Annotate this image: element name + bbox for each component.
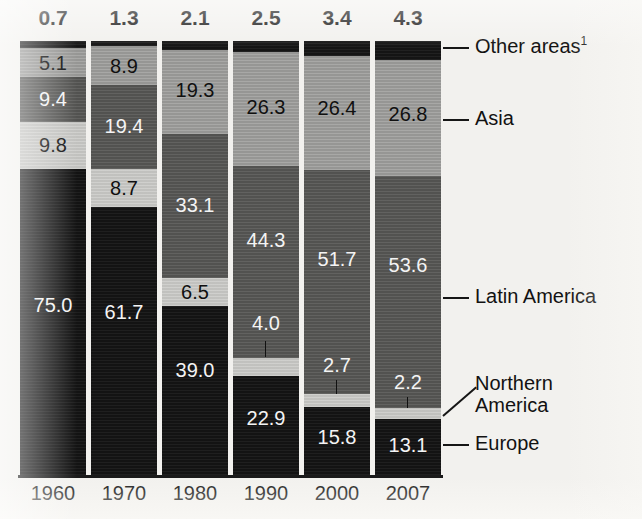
bar-1970-segment-europe[interactable]: 61.7 [91, 207, 157, 475]
bar-total-1990: 2.5 [231, 6, 301, 30]
bar-1990-segment-europe[interactable]: 22.9 [233, 376, 299, 475]
bar-1970-segment-northern-america[interactable]: 8.7 [91, 169, 157, 207]
bar-1980-segment-latin-america[interactable]: 33.1 [162, 134, 228, 278]
bar-2000-value-asia: 26.4 [304, 98, 370, 118]
bar-1960-segment-europe[interactable]: 75.0 [20, 169, 86, 475]
bar-2000-segment-europe[interactable]: 15.8 [304, 407, 370, 475]
legend-footnote-marker-other-areas: 1 [581, 34, 588, 48]
bar-1980-segment-europe[interactable]: 39.0 [162, 306, 228, 475]
legend-leader-latin-america [443, 297, 469, 299]
bar-total-1960: 0.7 [18, 6, 88, 30]
bar-total-1970: 1.3 [89, 6, 159, 30]
bar-2000-segment-latin-america[interactable]: 51.7 2.7 [304, 170, 370, 394]
bar-1970-value-latin-america: 19.4 [91, 116, 157, 136]
bar-1990-segment-latin-america[interactable]: 44.3 4.0 [233, 166, 299, 358]
legend-leader-asia [443, 119, 469, 121]
bar-2007-value-latin-america: 53.6 [375, 255, 441, 275]
legend-leader-other-areas [443, 47, 469, 49]
bar-1990-value-europe: 22.9 [233, 408, 299, 428]
bar-2007[interactable]: 26.8 53.6 2.2 13.1 [375, 41, 441, 475]
bar-1960-value-europe: 75.0 [20, 295, 86, 315]
bar-2007-segment-latin-america[interactable]: 53.6 2.2 [375, 176, 441, 408]
bar-2007-segment-other-areas[interactable] [375, 41, 441, 60]
x-axis-label-1980: 1980 [160, 482, 230, 505]
bar-2000-northern-america-leader-tick [336, 380, 337, 394]
bar-1970[interactable]: 8.9 19.4 8.7 61.7 [91, 41, 157, 475]
bar-1970-value-europe: 61.7 [91, 302, 157, 322]
bar-total-2007: 4.3 [373, 6, 443, 30]
bar-1990-segment-other-areas[interactable] [233, 41, 299, 52]
bar-1960[interactable]: 5.1 9.4 9.8 75.0 [20, 41, 86, 475]
bar-1960-segment-latin-america[interactable]: 9.4 [20, 77, 86, 122]
legend-label-northern-america: Northern America [475, 372, 553, 417]
bar-1990[interactable]: 26.3 44.3 4.0 22.9 [233, 41, 299, 475]
bar-1970-value-asia: 8.9 [91, 56, 157, 76]
bar-1990-northern-america-leader-tick [265, 341, 266, 357]
bar-2000-value-europe: 15.8 [304, 427, 370, 447]
bar-1970-segment-latin-america[interactable]: 19.4 [91, 85, 157, 169]
legend-label-latin-america: Latin America [475, 285, 596, 307]
bar-1980-segment-asia[interactable]: 19.3 [162, 50, 228, 134]
bar-total-2000: 3.4 [302, 6, 372, 30]
x-axis-label-2007: 2007 [373, 482, 443, 505]
x-axis-label-2000: 2000 [302, 482, 372, 505]
bar-1990-value-northern-america: 4.0 [233, 313, 299, 333]
bar-2007-segment-northern-america[interactable] [375, 408, 441, 419]
bar-1980-segment-northern-america[interactable]: 6.5 [162, 278, 228, 306]
bar-1960-segment-northern-america[interactable]: 9.8 [20, 122, 86, 169]
bar-2000[interactable]: 26.4 51.7 2.7 15.8 [304, 41, 370, 475]
bar-total-1980: 2.1 [160, 6, 230, 30]
x-axis-label-1960: 1960 [18, 482, 88, 505]
bar-1960-value-asia: 5.1 [20, 53, 86, 73]
bar-2000-segment-northern-america[interactable] [304, 394, 370, 407]
bar-2000-segment-other-areas[interactable] [304, 41, 370, 56]
bar-1990-value-asia: 26.3 [233, 97, 299, 117]
x-axis-line [18, 475, 443, 478]
bar-2007-value-asia: 26.8 [375, 104, 441, 124]
x-axis-label-1990: 1990 [231, 482, 301, 505]
legend-text-northern: Northern [475, 372, 553, 394]
legend-text-america: America [475, 394, 553, 416]
legend-label-other-areas: Other areas1 [475, 35, 587, 57]
bar-1970-value-northern-america: 8.7 [91, 178, 157, 198]
x-axis-label-1970: 1970 [89, 482, 159, 505]
bar-1960-value-northern-america: 9.8 [20, 135, 86, 155]
legend-text-other-areas: Other areas [475, 35, 581, 57]
bar-1980-value-latin-america: 33.1 [162, 195, 228, 215]
bar-1990-value-latin-america: 44.3 [233, 230, 299, 250]
bar-2007-value-europe: 13.1 [375, 435, 441, 455]
stacked-bar-chart: 0.7 1.3 2.1 2.5 3.4 4.3 5.1 9.4 9.8 75.0… [0, 0, 642, 519]
bar-1960-value-latin-america: 9.4 [20, 89, 86, 109]
bar-2007-segment-asia[interactable]: 26.8 [375, 60, 441, 176]
bar-1990-segment-northern-america[interactable] [233, 358, 299, 376]
bar-1980-value-northern-america: 6.5 [162, 282, 228, 302]
bar-2000-value-northern-america: 2.7 [304, 355, 370, 375]
bar-1980[interactable]: 19.3 33.1 6.5 39.0 [162, 41, 228, 475]
legend-leader-europe [443, 444, 469, 446]
bar-2007-value-northern-america: 2.2 [375, 372, 441, 392]
legend-label-asia: Asia [475, 107, 514, 129]
legend-leader-northern-america [442, 386, 477, 416]
bar-1980-value-asia: 19.3 [162, 80, 228, 100]
bar-1990-segment-asia[interactable]: 26.3 [233, 52, 299, 166]
bar-1980-value-europe: 39.0 [162, 360, 228, 380]
bar-2000-value-latin-america: 51.7 [304, 249, 370, 269]
bar-1960-segment-asia[interactable]: 5.1 [20, 48, 86, 77]
legend-label-europe: Europe [475, 432, 540, 454]
bar-1980-segment-other-areas[interactable] [162, 41, 228, 50]
bar-1970-segment-asia[interactable]: 8.9 [91, 46, 157, 85]
bar-1960-segment-other-areas[interactable] [20, 41, 86, 48]
bar-2007-segment-europe[interactable]: 13.1 [375, 419, 441, 475]
bar-2000-segment-asia[interactable]: 26.4 [304, 56, 370, 170]
